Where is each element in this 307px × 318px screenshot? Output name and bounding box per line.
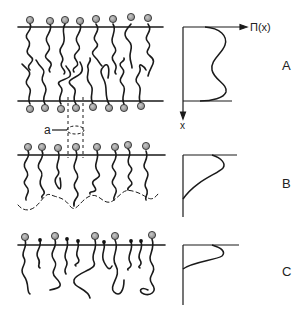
chain [101, 65, 109, 104]
chain [92, 24, 102, 66]
chain [50, 240, 60, 290]
panel-c-heads [21, 231, 155, 244]
head-group [38, 143, 45, 150]
head-group [148, 231, 155, 238]
chain [36, 60, 46, 104]
small-head-group [76, 239, 80, 243]
head-group [120, 104, 127, 111]
profile-graph-a [181, 25, 248, 120]
chain [128, 242, 132, 270]
head-group [72, 143, 79, 150]
pressure-profile-curve [183, 155, 224, 199]
small-head-group [139, 239, 143, 243]
chain [38, 151, 44, 198]
chain [26, 24, 32, 70]
area-ellipse [67, 126, 84, 134]
chain [90, 151, 100, 194]
chain [125, 24, 132, 68]
head-group [24, 143, 31, 150]
head-group [46, 17, 53, 24]
chain [55, 151, 61, 189]
head-group [137, 102, 144, 109]
head-group [111, 232, 118, 239]
head-group [76, 17, 83, 24]
chain [139, 242, 142, 268]
chain [24, 151, 29, 200]
chain [112, 24, 116, 74]
head-group [92, 15, 99, 22]
chain [69, 62, 82, 104]
profile-graph-c [183, 245, 239, 305]
head-group [127, 13, 134, 20]
small-head-group [129, 239, 133, 243]
chain [103, 243, 112, 269]
panel-b-structure [18, 149, 165, 210]
chain [22, 240, 30, 294]
chain [120, 58, 124, 104]
head-group [41, 104, 48, 111]
panel-label-c: C [282, 264, 291, 279]
small-head-group [65, 237, 69, 241]
head-group [105, 104, 112, 111]
chain [87, 58, 93, 104]
x-axis-label: x [180, 120, 185, 131]
chain [112, 240, 124, 294]
head-group [89, 103, 96, 110]
head-group [57, 105, 64, 112]
head-group [91, 232, 98, 239]
small-head-group [102, 240, 106, 244]
chain [45, 24, 51, 72]
chain [73, 24, 81, 72]
chain [144, 151, 148, 200]
head-group [124, 141, 131, 148]
head-group [21, 233, 28, 240]
panel-label-a: A [282, 58, 291, 73]
head-group [54, 144, 61, 151]
head-group [51, 232, 58, 239]
chain [136, 65, 146, 104]
profile-graph-b [183, 155, 237, 217]
chain [74, 151, 78, 206]
pi-axis-arrow-icon [240, 25, 247, 30]
area-label: a [44, 123, 51, 137]
head-group [26, 16, 33, 23]
head-group [72, 104, 79, 111]
head-group [111, 143, 118, 150]
small-head-group [38, 238, 42, 242]
chain [112, 151, 116, 200]
chain [141, 239, 155, 295]
head-group [26, 105, 33, 112]
membrane-diagram: a [0, 0, 307, 318]
panel-label-b: B [282, 176, 291, 191]
chain [60, 24, 65, 74]
pressure-profile-curve [200, 27, 226, 101]
chain [22, 64, 30, 104]
x-axis-arrow-icon [181, 112, 186, 119]
pressure-profile-curve [183, 245, 224, 269]
chain [146, 24, 153, 76]
chain-envelope-dashed [18, 190, 158, 209]
head-group [142, 142, 149, 149]
head-group [144, 14, 151, 21]
head-group [109, 15, 116, 22]
pi-axis-label: Π(x) [250, 21, 271, 33]
panel-a-structure [18, 24, 163, 104]
panel-c-structure [18, 239, 165, 298]
head-group [93, 143, 100, 150]
panel-b-heads [24, 141, 149, 151]
head-group [61, 16, 68, 23]
